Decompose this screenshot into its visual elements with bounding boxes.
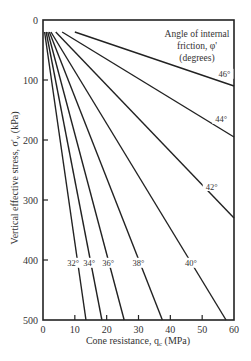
- x-tick-label: 0: [41, 324, 46, 335]
- x-tick-label: 20: [102, 324, 112, 335]
- x-tick-label: 60: [229, 324, 239, 335]
- series-label-46: 46°: [218, 69, 230, 79]
- y-tick-label: 100: [23, 75, 38, 86]
- series-line-34: [46, 32, 102, 320]
- y-tick-label: 300: [23, 195, 38, 206]
- y-tick-label: 0: [33, 15, 38, 26]
- series-line-38: [49, 32, 162, 320]
- series-label-44: 44°: [215, 114, 227, 124]
- legend-title-line-1: Angle of internal: [165, 29, 230, 39]
- chart: 01020304050600100200300400500 32°34°36°3…: [0, 0, 251, 361]
- x-tick-label: 30: [134, 324, 144, 335]
- x-tick-label: 40: [165, 324, 175, 335]
- x-tick-label: 50: [197, 324, 207, 335]
- y-tick-label: 500: [23, 315, 38, 326]
- series-line-40: [51, 32, 226, 320]
- y-axis-label: Vertical effective stress, σ'v (kPa): [9, 112, 22, 245]
- x-tick-label: 10: [70, 324, 80, 335]
- series-labels: 32°34°36°38°40°42°44°46°: [64, 69, 233, 268]
- series-label-38: 38°: [133, 258, 145, 268]
- series-label-34: 34°: [83, 258, 95, 268]
- series-lines: [45, 32, 234, 320]
- series-label-42: 42°: [206, 182, 218, 192]
- legend-title-line-3: (degrees): [179, 53, 214, 64]
- series-label-36: 36°: [102, 258, 114, 268]
- series-label-32: 32°: [67, 258, 79, 268]
- y-tick-label: 200: [23, 135, 38, 146]
- y-tick-label: 400: [23, 255, 38, 266]
- series-line-32: [45, 32, 86, 320]
- series-line-36: [48, 32, 124, 320]
- legend-title-line-2: friction, φ': [177, 41, 217, 51]
- x-axis-label: Cone resistance, qc (MPa): [86, 335, 190, 348]
- legend-title: Angle of internal friction, φ' (degrees): [165, 29, 230, 64]
- series-label-40: 40°: [185, 258, 197, 268]
